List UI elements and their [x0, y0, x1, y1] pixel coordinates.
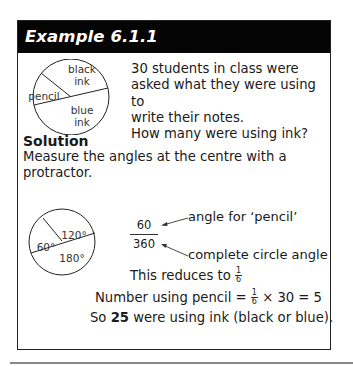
solution-line: protractor.: [23, 165, 323, 181]
label-black: black: [68, 63, 97, 75]
angle-180: 180°: [59, 252, 84, 264]
example-title: Example 6.1.1: [25, 27, 158, 46]
solution-title: Solution: [23, 133, 89, 149]
calc-fraction: 16: [251, 289, 258, 306]
fraction-bar: [130, 234, 158, 235]
question-line: How many were using ink?: [131, 126, 331, 142]
angle-diagram: 120° 60° 180°: [26, 206, 106, 286]
answer-suffix: were using ink (black or blue).: [133, 310, 333, 325]
numerator-note: angle for ‘pencil’: [188, 209, 297, 224]
arrow-head-icon: [161, 222, 168, 226]
question-line: write their notes.: [131, 110, 331, 126]
pie-diagram: black ink pencil blue ink: [22, 59, 124, 135]
label-black-ink: ink: [74, 75, 91, 87]
calc-line: Number using pencil = 16 × 30 = 5: [95, 289, 322, 306]
fraction-denominator: 360: [130, 237, 158, 251]
denominator-note: complete circle angle: [188, 247, 328, 262]
reduce-text: This reduces to: [130, 268, 231, 283]
answer-number: 25: [111, 310, 129, 325]
angle-60: 60°: [37, 241, 56, 253]
frac-d: 6: [235, 276, 242, 284]
label-blue: blue: [71, 104, 94, 116]
frac-d: 6: [251, 298, 258, 306]
question-line: 30 students in class were: [131, 61, 331, 77]
answer-line: So 25 were using ink (black or blue).: [90, 310, 333, 325]
calc-prefix: Number using pencil =: [95, 290, 247, 305]
page-rule: [10, 362, 353, 364]
example-header: Example 6.1.1: [18, 21, 330, 53]
calc-suffix: × 30 = 5: [262, 290, 322, 305]
reduce-line: This reduces to 16: [130, 267, 242, 284]
solution-text: Measure the angles at the centre with a …: [23, 149, 323, 181]
label-blue-ink: ink: [74, 116, 91, 128]
example-box: Example 6.1.1 black ink pencil blue ink …: [17, 20, 331, 350]
question-text: 30 students in class were asked what the…: [131, 61, 331, 142]
reduce-fraction: 16: [235, 267, 242, 284]
solution-line: Measure the angles at the centre with a: [23, 149, 323, 165]
angle-120: 120°: [61, 229, 86, 241]
answer-prefix: So: [90, 310, 106, 325]
arrow-head-icon: [161, 244, 167, 248]
question-line: asked what they were using to: [131, 77, 331, 110]
fraction-numerator: 60: [130, 218, 158, 232]
label-pencil: pencil: [28, 90, 59, 102]
